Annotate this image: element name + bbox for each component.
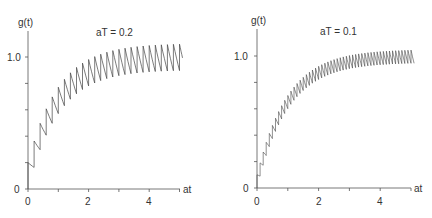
x-tick-label-2: 2 bbox=[85, 196, 91, 207]
y-tick-label-0: 0 bbox=[243, 183, 249, 194]
chart-panel-right: g(t) aT = 0.1 1.0 0 at 0 2 4 bbox=[234, 15, 423, 207]
chart-title: aT = 0.2 bbox=[96, 27, 133, 38]
y-tick-label-1: 1.0 bbox=[234, 51, 248, 62]
x-tick-label-2: 2 bbox=[316, 196, 322, 207]
y-axis-label: g(t) bbox=[18, 17, 33, 28]
sawtooth-curve bbox=[257, 50, 414, 188]
sawtooth-curve bbox=[28, 44, 183, 189]
y-tick-label-0: 0 bbox=[14, 184, 20, 195]
chart-title: aT = 0.1 bbox=[320, 26, 357, 37]
x-tick-label-0: 0 bbox=[25, 196, 31, 207]
y-tick-label-1: 1.0 bbox=[7, 52, 21, 63]
x-tick-label-4: 4 bbox=[146, 196, 152, 207]
figure: g(t) aT = 0.2 1.0 0 at 0 2 4 g(t) aT = 0… bbox=[0, 0, 432, 218]
x-axis-label: at bbox=[183, 184, 192, 195]
x-tick-label-0: 0 bbox=[254, 196, 260, 207]
chart-panel-left: g(t) aT = 0.2 1.0 0 at 0 2 4 bbox=[7, 17, 192, 207]
x-tick-label-4: 4 bbox=[377, 196, 383, 207]
y-axis-label: g(t) bbox=[251, 15, 266, 26]
x-axis-label: at bbox=[414, 183, 423, 194]
